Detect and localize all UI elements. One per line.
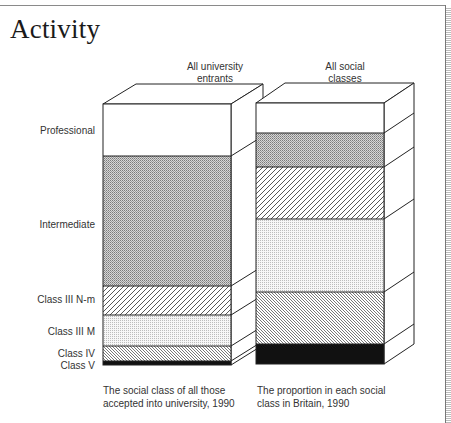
- segment-class-iv: [256, 292, 384, 344]
- segment-class-v: [103, 361, 231, 365]
- caption-line: class in Britain, 1990: [257, 397, 385, 410]
- row-label-class-v: Class V: [0, 360, 95, 371]
- row-label-class-iii-nm: Class III N-m: [0, 294, 95, 305]
- segment-class-iii-nm: [103, 286, 231, 315]
- caption-line: The social class of all those: [103, 384, 235, 397]
- segment-intermediate: [256, 133, 384, 167]
- segment-class-iv: [103, 346, 231, 361]
- side-face: [384, 83, 414, 364]
- segment-class-v: [256, 344, 384, 364]
- segment-intermediate: [103, 156, 231, 286]
- caption-line: The proportion in each social: [257, 384, 385, 397]
- caption-britain: The proportion in each social class in B…: [257, 384, 385, 410]
- row-label-class-iv: Class IV: [0, 348, 95, 359]
- caption-university: The social class of all those accepted i…: [103, 384, 235, 410]
- column-university-entrants: [103, 84, 263, 365]
- segment-professional: [103, 104, 231, 156]
- segment-professional: [256, 103, 384, 133]
- segment-class-iii-m: [103, 315, 231, 346]
- row-label-class-iii-m: Class III M: [0, 326, 95, 337]
- column-all-social-classes: [256, 83, 414, 364]
- row-label-professional: Professional: [0, 125, 95, 136]
- segment-class-iii-nm: [256, 167, 384, 219]
- caption-line: accepted into university, 1990: [103, 397, 235, 410]
- segment-class-iii-m: [256, 219, 384, 292]
- row-label-intermediate: Intermediate: [0, 219, 95, 230]
